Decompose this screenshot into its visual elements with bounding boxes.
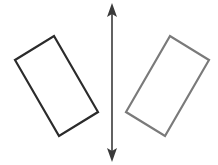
- original-rectangle: [15, 36, 98, 136]
- diagram-canvas: [0, 0, 218, 165]
- reflection-diagram: [0, 0, 218, 165]
- reflected-rectangle: [126, 36, 209, 136]
